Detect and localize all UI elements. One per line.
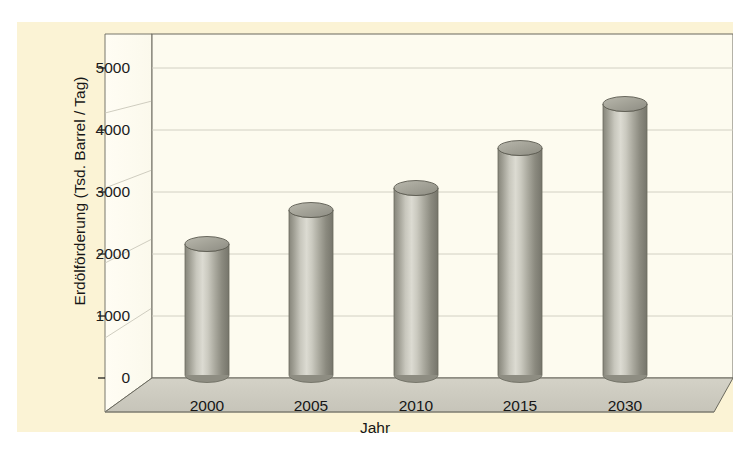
x-tick-label-2030: 2030 [585, 397, 665, 415]
bar-2030[interactable] [603, 97, 647, 383]
x-axis-label: Jahr [17, 419, 733, 437]
chart-page: 5000 4000 3000 2000 1000 0 Erdölförderun… [0, 0, 749, 453]
bar-2005[interactable] [289, 203, 333, 383]
x-tick-label-2010: 2010 [376, 397, 456, 415]
y-axis-label: Erdölförderung (Tsd. Barrel / Tag) [71, 26, 89, 356]
y-tick-label-0: 0 [78, 370, 130, 386]
bar-2010[interactable] [394, 181, 438, 383]
x-tick-label-2015: 2015 [480, 397, 560, 415]
bar-2000[interactable] [185, 237, 229, 383]
chart-panel: 5000 4000 3000 2000 1000 0 Erdölförderun… [17, 22, 733, 432]
x-tick-label-2005: 2005 [271, 397, 351, 415]
bar-2015[interactable] [498, 141, 542, 383]
y-axis-label-wrap: Erdölförderung (Tsd. Barrel / Tag) [35, 57, 65, 387]
x-tick-label-2000: 2000 [167, 397, 247, 415]
